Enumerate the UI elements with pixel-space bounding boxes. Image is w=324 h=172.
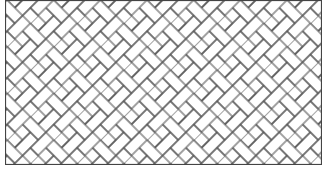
herringbone-pattern-figure [5, 0, 322, 165]
herringbone-pattern-svg [5, 0, 322, 165]
